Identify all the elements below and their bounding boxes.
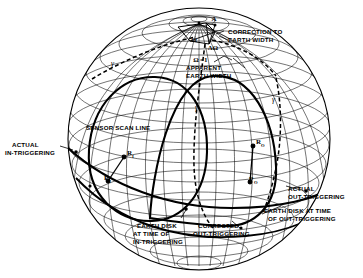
gamma-label-right: γ (272, 95, 276, 104)
correction-to-earth-width-label: CORRECTION TO EARTH WIDTH (228, 28, 282, 43)
svg-text:OF OUT-TRIGGERING: OF OUT-TRIGGERING (268, 215, 336, 222)
svg-text:ACTUAL: ACTUAL (288, 185, 315, 192)
svg-text:I: I (132, 154, 134, 159)
dashed-arc-left (92, 37, 196, 79)
svg-text:CORRECTED: CORRECTED (198, 222, 239, 229)
omega-equals-one-label: Ω =1 (193, 56, 208, 64)
actual-out-triggering-label: ACTUAL OUT-TRIGGERING (288, 185, 345, 200)
r-in-point (122, 155, 126, 159)
actual-in-triggering-label: ACTUAL IN-TRIGGERING (5, 141, 55, 156)
r-out-label: R O (256, 138, 265, 148)
delta-omega-label: ΔΩ (208, 44, 218, 52)
omega-label: Ω (191, 36, 197, 44)
svg-text:EARTH WIDTH: EARTH WIDTH (186, 72, 232, 79)
svg-text:IN-TRIGGERING: IN-TRIGGERING (5, 149, 55, 156)
svg-text:Ω: Ω (193, 56, 199, 64)
lower-left-dot (88, 184, 91, 187)
svg-text:APPARENT: APPARENT (186, 64, 221, 71)
earth-sensor-geometry-figure: A Ω ΔΩ Ω =1 CORRECTION TO EARTH WIDTH AP… (0, 0, 363, 278)
svg-text:OUT-TRIGGERING: OUT-TRIGGERING (288, 193, 345, 200)
sensor-scan-line-label: SENSOR SCAN LINE (86, 124, 150, 131)
gamma-label-left: γ (111, 59, 115, 68)
pole-vertex-dot (198, 22, 201, 25)
svg-text:EARTH DISK: EARTH DISK (137, 222, 177, 229)
apparent-earth-width-label: APPARENT EARTH WIDTH (186, 64, 232, 79)
earth-disk-out-triggering-label: EARTH DISK AT TIME OF OUT-TRIGGERING (264, 207, 336, 222)
svg-text:OUT-TRIGGERING: OUT-TRIGGERING (193, 230, 250, 237)
svg-text:IN-TRIGGERING: IN-TRIGGERING (133, 238, 183, 245)
in-triggering-dot (74, 150, 78, 154)
svg-text:EARTH DISK AT TIME: EARTH DISK AT TIME (264, 207, 331, 214)
svg-text:=1: =1 (200, 56, 208, 64)
svg-text:ACTUAL: ACTUAL (12, 141, 39, 148)
svg-text:EARTH WIDTH: EARTH WIDTH (228, 36, 274, 43)
point-a-label: A (211, 15, 216, 23)
diagram-canvas: A Ω ΔΩ Ω =1 CORRECTION TO EARTH WIDTH AP… (0, 0, 363, 278)
dashed-arc-right (212, 40, 276, 76)
r-out-point (251, 144, 255, 148)
svg-text:O: O (254, 180, 258, 185)
svg-text:AT TIME OF: AT TIME OF (133, 230, 170, 237)
svg-text:I: I (109, 179, 111, 184)
svg-text:O: O (261, 143, 265, 148)
svg-text:CORRECTION TO: CORRECTION TO (228, 28, 282, 35)
